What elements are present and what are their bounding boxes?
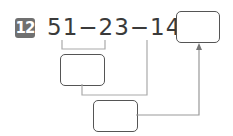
arrow-up-icon — [196, 43, 202, 50]
connector-box2-to-answer — [136, 49, 199, 115]
bracket-51-23 — [62, 40, 105, 49]
connector-lines — [0, 0, 233, 136]
connector-box1-to-14 — [82, 40, 147, 95]
